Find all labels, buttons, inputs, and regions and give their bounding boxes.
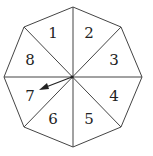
- section-label-4: 4: [109, 87, 119, 105]
- section-label-8: 8: [25, 51, 35, 69]
- section-label-5: 5: [84, 110, 94, 128]
- section-label-1: 1: [48, 24, 58, 42]
- section-label-7: 7: [25, 87, 35, 105]
- section-label-3: 3: [109, 51, 119, 69]
- section-label-6: 6: [48, 110, 58, 128]
- spinner-diagram: 1 2 3 4 5 6 7 8: [0, 0, 153, 156]
- section-label-2: 2: [84, 24, 94, 42]
